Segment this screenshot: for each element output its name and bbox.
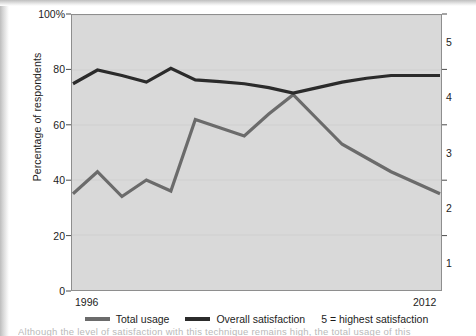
series-line-total-usage: [73, 95, 440, 197]
y-tick-right-1: 1: [446, 258, 472, 268]
legend-note-scale: 5 = highest satisfaction: [321, 313, 428, 325]
y-tick-left-80: 80: [21, 64, 65, 74]
y-tick-right-2: 2: [446, 203, 472, 213]
page-canvas: Percentage of respondents 100% 80 60 40 …: [0, 0, 476, 336]
y-axis-right-ticks: 5 4 3 2 1: [446, 14, 476, 291]
y-tick-right-5: 5: [446, 37, 472, 47]
y-tick-right-4: 4: [446, 92, 472, 102]
y-axis-left-ticks: 100% 80 60 40 20 0: [17, 14, 65, 291]
legend-item-overall-satisfaction[interactable]: Overall satisfaction: [185, 313, 305, 325]
y-tick-left-100: 100%: [21, 9, 65, 19]
y-tick-left-40: 40: [21, 175, 65, 185]
legend-swatch-total-usage: [85, 317, 110, 321]
x-tick-1996: 1996: [75, 296, 98, 308]
y-tick-right-3: 3: [446, 148, 472, 158]
plot-area: [71, 14, 442, 291]
legend-item-total-usage[interactable]: Total usage: [85, 313, 170, 325]
y-tick-left-60: 60: [21, 120, 65, 130]
series-lines: [73, 68, 440, 196]
legend-swatch-overall-satisfaction: [185, 317, 210, 321]
y-tick-left-0: 0: [21, 286, 65, 296]
chart-legend: Total usage Overall satisfaction 5 = hig…: [71, 311, 442, 327]
legend-label-overall-satisfaction: Overall satisfaction: [216, 313, 305, 325]
x-tick-2012: 2012: [413, 296, 436, 308]
page-edge-shadow-left: [0, 0, 9, 336]
legend-label-total-usage: Total usage: [116, 313, 170, 325]
plot-svg: [72, 15, 441, 290]
body-caption-text: Although the level of satisfaction with …: [18, 326, 466, 336]
chart-figure: Percentage of respondents 100% 80 60 40 …: [9, 6, 476, 336]
series-line-overall-satisfaction: [73, 68, 440, 93]
y-tick-left-20: 20: [21, 231, 65, 241]
